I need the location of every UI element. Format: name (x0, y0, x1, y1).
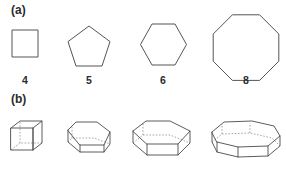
cube-prism-visible-edge (11, 121, 42, 128)
cube-prism-visible-edge (11, 128, 33, 150)
pentagonal-prism-hidden-edge (68, 138, 110, 144)
cube-prism (11, 121, 42, 150)
hexagonal-prism (133, 121, 190, 155)
prisms-group (0, 0, 286, 169)
octagonal-prism (212, 121, 280, 157)
pentagonal-prism (68, 122, 110, 152)
hexagonal-prism-visible-edge (133, 121, 190, 144)
figure-root: (a) 4 5 6 8 (b) (0, 0, 286, 169)
cube-prism-visible-edge (33, 121, 42, 150)
hexagonal-prism-visible-edge (133, 131, 190, 155)
pentagonal-prism-visible-edge (68, 122, 110, 145)
